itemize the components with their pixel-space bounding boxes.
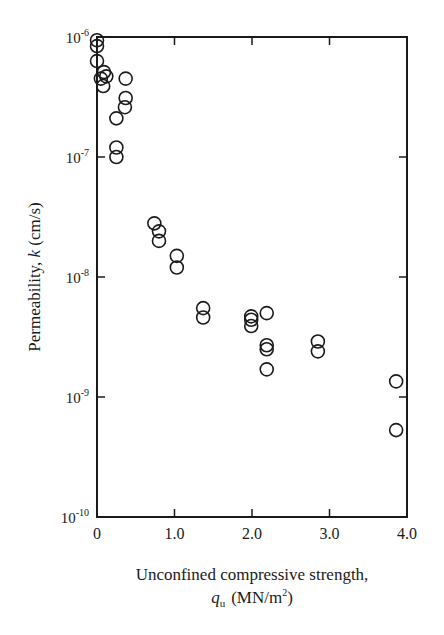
data-point-circle: [91, 40, 104, 53]
y-axis-ticks: 10-610-710-810-910-10: [61, 27, 407, 526]
x-tick-label: 4.0: [397, 525, 417, 542]
data-point-circle: [260, 343, 273, 356]
plot-frame: [97, 37, 407, 517]
y-tick-label: 10-9: [66, 387, 89, 406]
data-point-circle: [110, 151, 123, 164]
x-axis-title-line2: qu(MN/m2): [211, 587, 293, 609]
data-point-circle: [390, 424, 403, 437]
scatter-chart: 01.02.03.04.0 10-610-710-810-910-10 Unco…: [0, 0, 444, 635]
x-axis-title: Unconfined compressive strength,: [136, 565, 369, 584]
x-axis-units: (MN/m: [231, 588, 282, 607]
data-point-circle: [97, 80, 110, 93]
y-tick-label: 10-6: [66, 27, 89, 46]
data-point-circle: [390, 375, 403, 388]
data-point-circle: [118, 101, 131, 114]
data-point-circle: [245, 320, 258, 333]
y-tick-label: 10-7: [66, 147, 89, 166]
x-axis-units-close: ): [287, 588, 293, 607]
data-point-circle: [110, 112, 123, 125]
data-point-circle: [197, 311, 210, 324]
x-axis-symbol-subscript: u: [220, 597, 226, 609]
data-point-circle: [119, 72, 132, 85]
data-point-circle: [311, 345, 324, 358]
data-point-circle: [153, 234, 166, 247]
data-point-circle: [260, 307, 273, 320]
x-tick-label: 1.0: [165, 525, 185, 542]
y-axis-title: Permeability, k (cm/s): [25, 202, 44, 352]
y-tick-label: 10-8: [66, 267, 89, 286]
y-axis-title-units: (cm/s): [25, 202, 44, 250]
data-point-circle: [170, 261, 183, 274]
y-tick-label: 10-10: [61, 507, 89, 526]
y-axis-title-prefix: Permeability,: [25, 257, 44, 351]
x-tick-label: 3.0: [320, 525, 340, 542]
x-tick-label: 2.0: [242, 525, 262, 542]
data-point-circle: [260, 363, 273, 376]
x-tick-label: 0: [93, 525, 101, 542]
x-axis-ticks: 01.02.03.04.0: [93, 37, 417, 542]
data-points: [91, 34, 403, 437]
